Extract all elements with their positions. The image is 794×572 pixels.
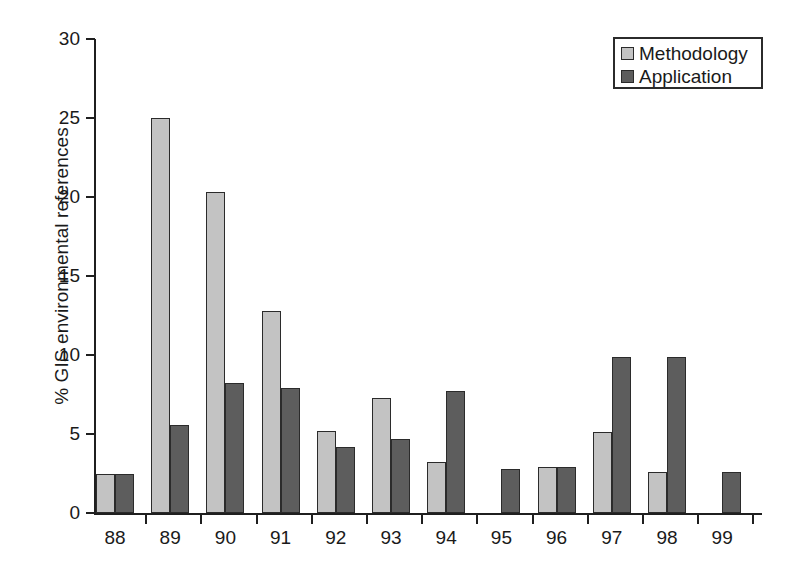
- x-tick-label-95: 95: [471, 528, 531, 547]
- bar-methodology-92: [317, 431, 336, 513]
- x-tick-label-98: 98: [637, 528, 697, 547]
- x-tick-99: [752, 515, 754, 524]
- y-tick-label: 20: [36, 187, 80, 206]
- methodology-swatch-icon: [621, 47, 634, 60]
- legend-item-application: Application: [621, 65, 756, 88]
- bar-methodology-91: [262, 311, 281, 513]
- bar-methodology-93: [372, 398, 391, 513]
- legend-item-methodology: Methodology: [621, 42, 756, 65]
- y-tick-label-text: 30: [36, 29, 80, 48]
- x-tick-label-90: 90: [195, 528, 255, 547]
- y-tick-20: [86, 196, 95, 198]
- y-tick-10: [86, 354, 95, 356]
- application-swatch-icon: [621, 70, 634, 83]
- y-tick-label-text: 20: [36, 187, 80, 206]
- x-tick-label-93: 93: [361, 528, 421, 547]
- y-tick-label: 30: [36, 29, 80, 48]
- y-tick-25: [86, 117, 95, 119]
- y-tick-label: 10: [36, 345, 80, 364]
- legend-label-application: Application: [639, 67, 732, 86]
- bar-methodology-96: [538, 467, 557, 513]
- bar-application-99: [722, 472, 741, 513]
- x-tick-95: [532, 515, 534, 524]
- bar-methodology-89: [151, 118, 170, 513]
- bar-application-98: [667, 357, 686, 513]
- bar-application-88: [115, 474, 134, 513]
- bar-application-93: [391, 439, 410, 513]
- bar-application-89: [170, 425, 189, 513]
- x-tick-label-88: 88: [85, 528, 145, 547]
- y-tick-label-text: 10: [36, 345, 80, 364]
- x-tick-label-97: 97: [582, 528, 642, 547]
- x-tick-94: [476, 515, 478, 524]
- bar-application-90: [225, 383, 244, 513]
- y-tick-label-text: 15: [36, 266, 80, 285]
- bar-application-95: [501, 469, 520, 513]
- chart-legend: Methodology Application: [613, 37, 763, 89]
- x-axis-line: [94, 513, 762, 515]
- x-tick-90: [256, 515, 258, 524]
- bar-methodology-90: [206, 192, 225, 513]
- bar-application-94: [446, 391, 465, 513]
- x-tick-label-99: 99: [692, 528, 752, 547]
- x-tick-88: [145, 515, 147, 524]
- bar-methodology-94: [427, 462, 446, 513]
- x-tick-92: [366, 515, 368, 524]
- y-tick-label-text: 25: [36, 108, 80, 127]
- x-tick-98: [697, 515, 699, 524]
- legend-label-methodology: Methodology: [639, 44, 748, 63]
- x-tick-label-89: 89: [140, 528, 200, 547]
- y-tick-15: [86, 275, 95, 277]
- bar-methodology-98: [648, 472, 667, 513]
- bar-application-96: [557, 467, 576, 513]
- bar-application-92: [336, 447, 355, 513]
- x-tick-label-92: 92: [306, 528, 366, 547]
- x-tick-label-91: 91: [251, 528, 311, 547]
- bar-application-91: [281, 388, 300, 513]
- y-tick-label-text: 0: [36, 503, 80, 522]
- x-tick-label-94: 94: [416, 528, 476, 547]
- bar-application-97: [612, 357, 631, 513]
- x-tick-89: [200, 515, 202, 524]
- x-tick-96: [587, 515, 589, 524]
- y-tick-label-text: 5: [36, 424, 80, 443]
- y-tick-0: [86, 512, 95, 514]
- x-tick-97: [642, 515, 644, 524]
- x-tick-93: [421, 515, 423, 524]
- y-tick-5: [86, 433, 95, 435]
- y-tick-label: 0: [36, 503, 80, 522]
- y-tick-label: 25: [36, 108, 80, 127]
- bar-chart-figure: % GIS environmental references 051015202…: [0, 0, 794, 572]
- y-tick-30: [86, 38, 95, 40]
- y-tick-label: 15: [36, 266, 80, 285]
- bar-methodology-88: [96, 474, 115, 514]
- y-tick-label: 5: [36, 424, 80, 443]
- x-tick-91: [311, 515, 313, 524]
- bar-methodology-97: [593, 432, 612, 513]
- x-tick-label-96: 96: [527, 528, 587, 547]
